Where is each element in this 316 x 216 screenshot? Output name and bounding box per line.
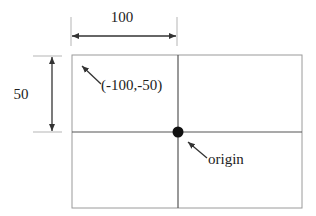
origin-dot <box>173 127 184 138</box>
coordinate-diagram: 100 50 (-100,-50) origin <box>0 0 316 216</box>
origin-pointer-arrow <box>188 142 207 158</box>
origin-label: origin <box>208 151 244 167</box>
horizontal-dimension-label: 100 <box>111 9 134 25</box>
corner-pointer-arrow <box>82 66 101 84</box>
vertical-dimension-label: 50 <box>14 86 29 102</box>
corner-coordinate-label: (-100,-50) <box>101 77 162 94</box>
